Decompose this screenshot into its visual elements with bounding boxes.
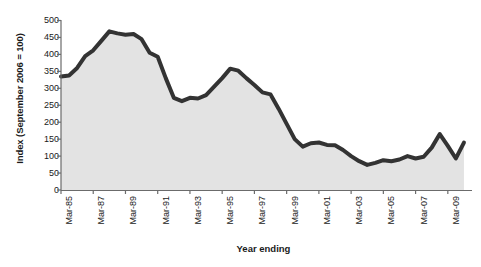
chart-container: Index (September 2006 = 100) Year ending…: [0, 0, 481, 267]
chart-plot-area: [0, 0, 481, 267]
series-area-fill: [61, 31, 464, 190]
